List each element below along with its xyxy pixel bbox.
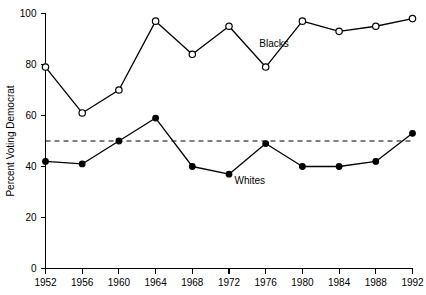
y-axis-title: Percent Voting Democrat: [5, 85, 16, 196]
series-line-blacks: [46, 19, 413, 113]
x-tick-label: 1972: [218, 277, 241, 288]
data-point-blacks-1968: [189, 51, 195, 57]
data-point-whites-1960: [116, 138, 122, 144]
y-tick-label: 100: [20, 8, 37, 19]
data-point-blacks-1956: [79, 110, 85, 116]
y-tick-label: 0: [31, 263, 37, 274]
x-tick-label: 1960: [108, 277, 131, 288]
x-tick-label: 1964: [144, 277, 167, 288]
y-tick-label: 80: [25, 59, 37, 70]
x-tick-label: 1956: [71, 277, 94, 288]
data-point-whites-1976: [263, 141, 269, 147]
series-annotation-blacks: Blacks: [259, 38, 288, 49]
x-tick-label: 1980: [291, 277, 314, 288]
x-tick-label: 1988: [365, 277, 388, 288]
data-point-whites-1964: [153, 115, 159, 121]
x-tick-label: 1952: [34, 277, 57, 288]
chart-container: 0204060801001952195619601964196819721976…: [0, 0, 426, 295]
data-point-whites-1992: [410, 131, 416, 137]
data-point-whites-1988: [373, 159, 379, 165]
x-tick-label: 1968: [181, 277, 204, 288]
data-point-blacks-1988: [373, 23, 379, 29]
data-point-whites-1952: [43, 159, 49, 165]
data-point-whites-1968: [190, 164, 196, 170]
data-point-blacks-1976: [263, 64, 269, 70]
data-point-blacks-1972: [226, 23, 232, 29]
data-point-whites-1972: [226, 171, 232, 177]
data-point-blacks-1992: [409, 15, 415, 21]
line-chart: 0204060801001952195619601964196819721976…: [0, 0, 426, 295]
data-point-blacks-1952: [42, 64, 48, 70]
data-point-blacks-1984: [336, 28, 342, 34]
series-line-whites: [46, 118, 413, 174]
data-point-blacks-1980: [299, 18, 305, 24]
data-point-whites-1984: [336, 164, 342, 170]
series-annotation-whites: Whites: [235, 175, 266, 186]
data-point-blacks-1964: [152, 18, 158, 24]
y-tick-label: 40: [25, 161, 37, 172]
data-point-whites-1980: [300, 164, 306, 170]
y-tick-label: 60: [25, 110, 37, 121]
x-tick-label: 1976: [255, 277, 278, 288]
x-tick-label: 1992: [401, 277, 424, 288]
x-tick-label: 1984: [328, 277, 351, 288]
data-point-whites-1956: [79, 161, 85, 167]
data-point-blacks-1960: [116, 87, 122, 93]
y-tick-label: 20: [25, 212, 37, 223]
